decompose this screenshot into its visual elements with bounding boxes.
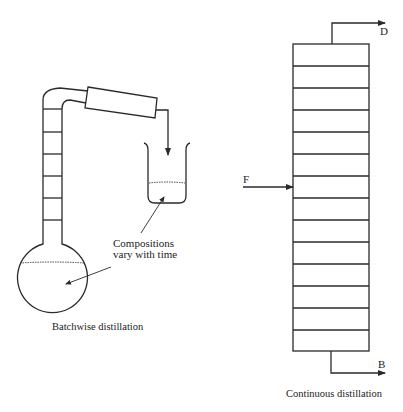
vapour-pipe: [43, 88, 88, 109]
batch-caption: Batchwise distillation: [52, 321, 144, 332]
bottoms-label: B: [378, 358, 385, 370]
annotation-arrow-flask: [66, 267, 111, 284]
feed-label: F: [243, 173, 249, 185]
flask-liquid-level: [20, 262, 85, 263]
batch-column: [43, 100, 62, 241]
receiver-beaker: [144, 143, 190, 203]
still-flask: [18, 241, 88, 313]
distillation-diagram: Compositions vary with time Batchwise di…: [0, 0, 403, 412]
continuous-distillation-apparatus: D F B Continuous distillation: [243, 23, 388, 399]
bottoms-stream-arrow: [331, 351, 385, 373]
continuous-caption: Continuous distillation: [286, 388, 383, 399]
continuous-column: [293, 44, 369, 351]
distillate-line: [156, 110, 168, 155]
beaker-liquid-level: [149, 182, 185, 183]
distillate-stream-arrow: [332, 23, 385, 44]
distillate-label: D: [380, 25, 388, 37]
batch-distillation-apparatus: Compositions vary with time Batchwise di…: [18, 87, 191, 332]
annotation-text-line2: vary with time: [113, 248, 177, 260]
condenser: [85, 87, 157, 118]
